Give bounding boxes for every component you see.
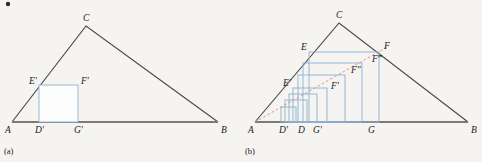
- scan-speck: [6, 2, 10, 6]
- panel-b: A B C E′ E F F′ F″ F‴ D′ D G′ G (b): [241, 0, 482, 162]
- dashed-ray-A-to-F: [255, 47, 387, 122]
- panel-a: A B C E′ F′ D′ G′ (a): [0, 0, 241, 162]
- label-F-prime-a: F′: [80, 76, 90, 86]
- label-A-a: A: [4, 125, 11, 135]
- caption-a: (a): [4, 146, 14, 156]
- caption-b: (b): [245, 146, 255, 156]
- label-C-b: C: [336, 10, 343, 20]
- label-D-prime-a: D′: [34, 125, 45, 135]
- label-C-a: C: [83, 13, 90, 23]
- label-F-triple-prime-b: F‴: [371, 54, 383, 64]
- nested-square-1: [281, 107, 296, 122]
- label-D-prime-b: D′: [278, 125, 289, 135]
- label-B-a: B: [221, 125, 227, 135]
- label-G-prime-b: G′: [313, 125, 323, 135]
- label-G-b: G: [368, 125, 375, 135]
- label-B-b: B: [471, 125, 477, 135]
- label-F-double-prime-b: F″: [350, 65, 362, 75]
- label-D-b: D: [297, 125, 305, 135]
- nested-square-7: [309, 52, 379, 122]
- label-F-prime-b: F′: [330, 81, 340, 91]
- inscribed-square-fill-a: [39, 85, 78, 122]
- label-F-b: F: [383, 41, 390, 51]
- label-E-prime-b: E′: [282, 78, 292, 88]
- label-E-prime-a: E′: [28, 76, 38, 86]
- label-E-b: E: [300, 42, 307, 52]
- label-A-b: A: [247, 125, 254, 135]
- label-G-prime-a: G′: [74, 125, 84, 135]
- figure-container: A B C E′ F′ D′ G′ (a): [0, 0, 482, 162]
